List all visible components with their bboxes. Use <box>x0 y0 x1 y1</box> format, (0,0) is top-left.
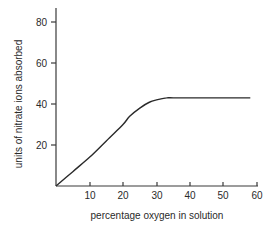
y-axis-title: units of nitrate ions absorbed <box>13 40 24 168</box>
y-tick-label: 80 <box>36 17 48 28</box>
x-ticks: 10 20 30 40 50 60 <box>84 182 263 201</box>
x-tick-label: 20 <box>117 190 129 201</box>
x-tick-label: 60 <box>251 190 263 201</box>
x-tick-label: 40 <box>184 190 196 201</box>
y-tick-label: 20 <box>36 140 48 151</box>
x-tick-label: 30 <box>151 190 163 201</box>
line-chart: 80 60 40 20 10 20 30 40 50 60 percentage… <box>0 0 274 231</box>
x-tick-label: 10 <box>84 190 96 201</box>
data-line <box>56 98 250 186</box>
x-axis-title: percentage oxygen in solution <box>91 210 224 221</box>
y-ticks: 80 60 40 20 <box>36 17 56 151</box>
y-tick-label: 40 <box>36 99 48 110</box>
x-tick-label: 50 <box>217 190 229 201</box>
y-tick-label: 60 <box>36 58 48 69</box>
